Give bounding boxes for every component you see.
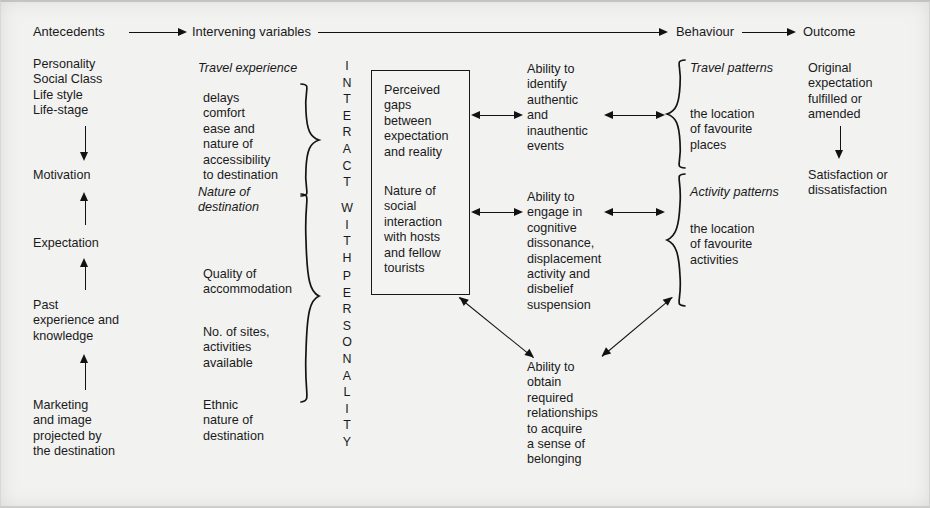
brace-behaviour-travel-patterns	[664, 58, 688, 170]
behaviour-group-travel-patterns-label: Travel patterns	[690, 61, 773, 76]
arrow-box-to-ability2-shaft	[479, 212, 518, 213]
outcome-item-original-expectation: Original expectation fulfilled or amende…	[808, 61, 872, 123]
intervening-group-travel-experience-items: delays comfort ease and nature of access…	[203, 91, 278, 183]
arrow-marketing-to-pastexperience-head	[80, 354, 88, 363]
arrow-box-to-ability2-head-right	[514, 208, 523, 216]
intervening-group-destination-label: Nature of destination	[198, 185, 259, 216]
arrow-box-to-ability1-shaft	[479, 115, 518, 116]
arrow-pastexperience-to-expectation-head	[80, 258, 88, 267]
heading-antecedents: Antecedents	[33, 24, 105, 39]
arrow-outcome-expectation-to-satisfaction-shaft	[840, 126, 841, 153]
heading-behaviour: Behaviour	[676, 24, 734, 39]
brace-intervening-nature-destination	[298, 192, 322, 404]
interaction-axis-personality: P E R S O N A L I T Y	[338, 268, 356, 451]
intervening-group-travel-experience-label: Travel experience	[198, 61, 297, 76]
arrow-ability2-to-behaviour-head-left	[604, 208, 613, 216]
arrow-ability3-to-behaviour-diagonal	[602, 297, 673, 357]
behaviour-group-activity-patterns-label: Activity patterns	[690, 185, 779, 200]
arrow-box-to-ability1-head-right	[514, 111, 523, 119]
arrow-antecedents-to-intervening-head	[178, 28, 187, 36]
perception-box: Perceived gaps between expectation and r…	[371, 70, 470, 295]
heading-outcome: Outcome	[803, 24, 855, 39]
heading-intervening-variables: Intervening variables	[192, 24, 311, 39]
arrow-expectation-to-motivation-head	[80, 192, 88, 201]
behaviour-group-travel-patterns-items: the location of favourite places	[690, 107, 754, 153]
arrow-lifestage-to-motivation-shaft	[85, 126, 86, 155]
intervening-item-quality-accommodation: Quality of accommodation	[203, 267, 292, 298]
arrow-behaviour-to-outcome-head	[787, 28, 796, 36]
arrow-antecedents-to-intervening-shaft	[129, 32, 181, 33]
arrow-ability3-to-behaviour-head-lower	[599, 348, 611, 360]
arrow-box-to-ability1-head-left	[471, 111, 480, 119]
interaction-axis-with: W I T H	[338, 200, 356, 266]
arrow-ability1-to-behaviour-shaft	[612, 115, 660, 116]
arrow-ability2-to-behaviour-shaft	[612, 212, 660, 213]
arrow-intervening-to-behaviour-head	[659, 28, 668, 36]
behaviour-group-activity-patterns-items: the location of favourite activities	[690, 222, 754, 268]
perception-box-block-social-interaction: Nature of social interaction with hosts …	[384, 184, 442, 276]
brace-intervening-travel-experience	[298, 82, 322, 198]
arrow-ability1-to-behaviour-head-left	[604, 111, 613, 119]
arrow-intervening-to-behaviour-shaft	[318, 32, 662, 33]
ability-block-cognitive-dissonance: Ability to engage in cognitive dissonanc…	[527, 190, 601, 313]
brace-behaviour-activity-patterns	[664, 172, 688, 308]
intervening-item-sites-activities: No. of sites, activities available	[203, 325, 270, 371]
antecedents-item-past-experience: Past experience and knowledge	[33, 298, 119, 344]
arrow-box-to-ability2-head-left	[471, 208, 480, 216]
arrow-lifestage-to-motivation-head	[80, 152, 88, 161]
antecedents-item-expectation: Expectation	[33, 236, 99, 251]
arrow-box-to-ability3-diagonal	[459, 297, 534, 358]
arrow-behaviour-to-outcome-shaft	[742, 32, 790, 33]
interaction-axis-interact: I N T E R A C T	[338, 58, 356, 191]
intervening-item-ethnic-nature: Ethnic nature of destination	[203, 398, 264, 444]
antecedents-item-marketing: Marketing and image projected by the des…	[33, 398, 115, 460]
ability-block-obtain-relationships: Ability to obtain required relationships…	[527, 360, 598, 468]
arrow-outcome-expectation-to-satisfaction-head	[835, 150, 843, 159]
outcome-item-satisfaction: Satisfaction or dissatisfaction	[808, 168, 888, 199]
antecedents-item-personality-group: Personality Social Class Life style Life…	[33, 57, 102, 119]
perception-box-block-perceived-gaps: Perceived gaps between expectation and r…	[384, 83, 448, 160]
antecedents-item-motivation: Motivation	[33, 168, 90, 183]
ability-block-identify-authentic: Ability to identify authentic and inauth…	[527, 62, 588, 154]
arrow-box-to-ability3-head-upper	[457, 294, 469, 306]
diagram-canvas: Antecedents Intervening variables Behavi…	[0, 0, 930, 508]
